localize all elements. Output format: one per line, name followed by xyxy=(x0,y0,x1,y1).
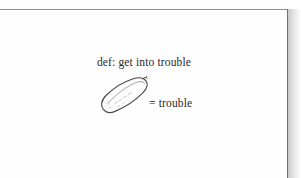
page-shadow-top-gap xyxy=(288,0,301,9)
scanned-page: def: get into trouble xyxy=(0,0,301,178)
pickle-icon xyxy=(96,70,154,120)
definition-text: def: get into trouble xyxy=(0,56,288,68)
illustration-row: = trouble xyxy=(96,70,246,120)
page-edge-shadow xyxy=(288,9,301,178)
page-top-rule xyxy=(0,9,288,10)
equals-trouble-label: = trouble xyxy=(149,97,192,109)
page-right-edge-line xyxy=(287,9,288,178)
